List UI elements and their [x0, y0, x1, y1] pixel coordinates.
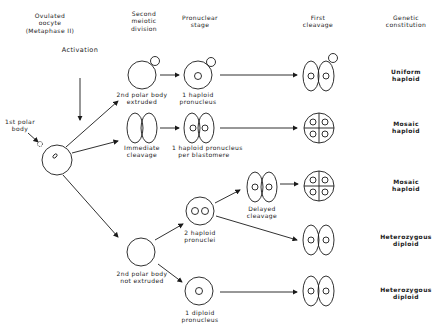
text: 2nd polar body	[114, 91, 170, 98]
header-second-meiotic: Second meiotic division	[124, 10, 164, 32]
delayed-cleavage-cell	[247, 172, 277, 202]
outcome-1: Uniform haploid	[382, 68, 430, 83]
text: Heterozygous	[380, 233, 432, 240]
immediate-cleavage-cell	[127, 113, 157, 143]
text: Second	[124, 10, 164, 17]
outcome-3: Mosaic haploid	[382, 178, 430, 193]
four-cell-mosaic-1	[304, 113, 334, 143]
text: pronuclei	[180, 236, 220, 243]
text: Mosaic	[382, 178, 430, 185]
text: stage	[176, 21, 224, 28]
outcome-5: Heterozygous diploid	[380, 286, 432, 301]
first-polar-body-label: 1st polar body	[2, 118, 38, 133]
text: division	[124, 25, 164, 32]
text: constitution	[382, 21, 430, 28]
text: haploid	[382, 185, 430, 192]
text: 1 haploid	[178, 91, 218, 98]
text: not extruded	[114, 277, 170, 284]
pb-extruded-label: 2nd polar body extruded	[114, 91, 170, 106]
text: body	[2, 125, 38, 132]
text: Immediate	[122, 144, 162, 151]
header-oocyte: Ovulated oocyte (Metaphase II)	[22, 12, 78, 34]
blastomere-pronuclei-cell	[184, 113, 214, 143]
text: oocyte	[22, 19, 78, 26]
text: diploid	[380, 240, 432, 247]
text: extruded	[114, 98, 170, 105]
pb-not-extruded-cell	[127, 238, 155, 266]
text: Ovulated	[22, 12, 78, 19]
two-cell-uniform	[303, 54, 338, 92]
haploid-per-blastomere-label: 1 haploid pronucleus per blastomere	[172, 144, 236, 159]
text: First	[298, 14, 338, 21]
text: cleavage	[122, 151, 162, 158]
header-pronuclear: Pronuclear stage	[176, 14, 224, 29]
text: cleavage	[242, 212, 282, 219]
text: diploid	[380, 293, 432, 300]
text: 1st polar	[2, 118, 38, 125]
pb-not-extruded-label: 2nd polar body not extruded	[114, 270, 170, 285]
oocyte-cell	[28, 133, 72, 175]
haploid-pronucleus-cell	[184, 58, 216, 90]
diploid-pronucleus-cell	[185, 277, 213, 305]
two-pronuclei-label: 2 haploid pronuclei	[180, 229, 220, 244]
text: Mosaic	[382, 120, 430, 127]
text: pronucleus	[180, 316, 220, 323]
activation-label: Activation	[58, 47, 102, 54]
text: cleavage	[298, 21, 338, 28]
text: 2 haploid	[180, 229, 220, 236]
pb-extruded-cell	[128, 57, 160, 90]
header-genetic: Genetic constitution	[382, 14, 430, 29]
text: 1 diploid	[180, 309, 220, 316]
text: Pronuclear	[176, 14, 224, 21]
two-cell-diploid-1	[303, 225, 334, 255]
text: per blastomere	[172, 151, 236, 158]
text: pronucleus	[178, 98, 218, 105]
text: Genetic	[382, 14, 430, 21]
text: (Metaphase II)	[22, 27, 78, 34]
two-pronuclei-cell	[186, 197, 214, 225]
text: haploid	[382, 75, 430, 82]
text: Heterozygous	[380, 286, 432, 293]
four-cell-mosaic-2	[304, 171, 334, 201]
text: haploid	[382, 127, 430, 134]
text: 1 haploid pronucleus	[172, 144, 236, 151]
two-cell-diploid-2	[303, 276, 334, 306]
outcome-4: Heterozygous diploid	[380, 233, 432, 248]
text: Uniform	[382, 68, 430, 75]
diploid-pronucleus-label: 1 diploid pronucleus	[180, 309, 220, 324]
outcome-2: Mosaic haploid	[382, 120, 430, 135]
immediate-cleavage-label: Immediate cleavage	[122, 144, 162, 159]
text: Delayed	[242, 205, 282, 212]
header-first-cleavage: First cleavage	[298, 14, 338, 29]
haploid-pronucleus-label: 1 haploid pronucleus	[178, 91, 218, 106]
delayed-cleavage-label: Delayed cleavage	[242, 205, 282, 220]
text: meiotic	[124, 17, 164, 24]
text: 2nd polar body	[114, 270, 170, 277]
